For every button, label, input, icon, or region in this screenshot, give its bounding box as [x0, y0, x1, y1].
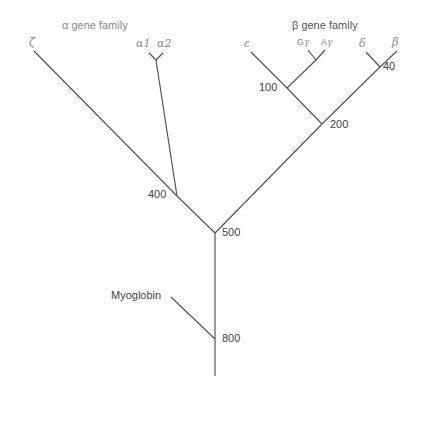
node-200: 200: [330, 119, 348, 130]
node-40: 40: [383, 61, 395, 72]
leaf-zeta: ζ: [29, 37, 35, 48]
node-500: 500: [222, 227, 240, 238]
branch-g-gamma: [308, 50, 316, 60]
leaf-myoglobin: Myoglobin: [111, 290, 161, 301]
leaf-epsilon: ε: [244, 38, 250, 49]
branch-400-500: [177, 196, 215, 233]
leaf-alpha1: α1: [136, 38, 150, 49]
branch-alpha1: [149, 53, 156, 60]
branch-zeta: [34, 51, 177, 196]
leaf-beta: β: [392, 37, 398, 48]
leaf-g-gamma: Gγ: [297, 38, 309, 47]
branch-a-gamma: [316, 50, 325, 60]
beta-family-label: β gene family: [292, 20, 358, 31]
g-gamma-symbol: γ: [304, 37, 309, 47]
branch-100-200: [287, 88, 322, 124]
node-800: 800: [222, 333, 240, 344]
branch-myoglobin: [171, 297, 215, 339]
branch-40-200: [322, 67, 380, 124]
branch-alpha2: [156, 53, 163, 60]
leaf-a-gamma: Aγ: [321, 38, 332, 47]
leaf-delta: δ: [359, 38, 366, 49]
leaf-alpha2: α2: [157, 38, 171, 49]
branch-delta: [366, 52, 380, 67]
a-gamma-symbol: γ: [327, 37, 332, 47]
g-gamma-prefix: G: [297, 37, 304, 47]
alpha-family-label: α gene family: [62, 20, 128, 31]
node-100: 100: [259, 82, 277, 93]
node-400: 400: [148, 189, 166, 200]
branch-alpha-stem: [156, 60, 177, 196]
branch-200-500: [215, 124, 322, 233]
branch-gamma-stem: [287, 60, 316, 88]
phylogenetic-tree: [0, 0, 430, 422]
